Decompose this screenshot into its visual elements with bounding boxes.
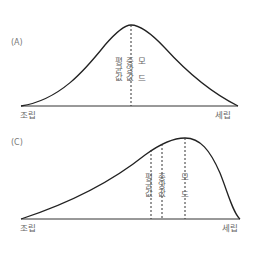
axis-right-label: 세립 [222, 221, 238, 233]
panel-label: (A) [11, 38, 23, 47]
median-label: 중앙값 [156, 173, 165, 197]
panel-label: (C) [11, 138, 23, 147]
panel-a-symmetric-distribution: (A) 평균값 중앙값 모 드 조립 세립 [0, 0, 260, 128]
mean-label: 평균값 [113, 57, 122, 81]
axis-right-label: 세립 [215, 108, 231, 120]
panel-c-skewed-distribution: (C) 평균값 중앙값 모 드 조립 세립 [0, 128, 260, 256]
axis-left-label: 조립 [20, 108, 36, 120]
skewed-curve-plot [0, 128, 260, 256]
mode-label: 모 드 [179, 173, 188, 198]
median-label: 중앙값 [124, 57, 133, 81]
mean-label: 평균값 [143, 173, 152, 197]
mode-label: 모 드 [136, 57, 145, 82]
distribution-curve [21, 138, 240, 219]
axis-left-label: 조립 [20, 221, 36, 233]
